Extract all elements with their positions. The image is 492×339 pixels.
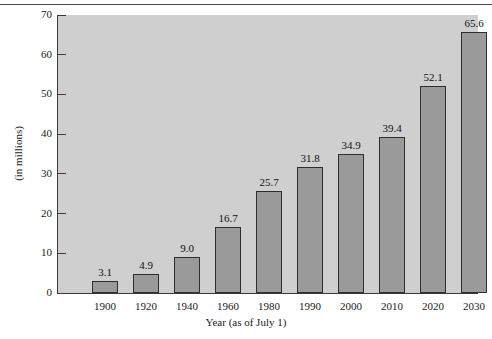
bar-value-label: 31.8 <box>290 153 330 164</box>
x-axis-tick-label: 2000 <box>331 301 371 312</box>
y-axis-tick <box>58 293 66 294</box>
x-axis-line <box>57 293 478 294</box>
y-axis-tick <box>58 253 66 254</box>
y-axis-tick-label-text: 40 <box>28 128 52 139</box>
y-axis-tick-label-text: 20 <box>28 208 52 219</box>
bar <box>338 154 364 293</box>
bar-value-label: 16.7 <box>208 213 248 224</box>
y-axis-title: (in millions) <box>13 94 24 214</box>
x-axis-tick-label: 1960 <box>208 301 248 312</box>
bar <box>420 86 446 293</box>
y-axis-tick <box>58 213 66 214</box>
y-axis-tick-label: 30 <box>22 168 52 179</box>
bar-value-label: 4.9 <box>126 260 166 271</box>
y-axis-tick <box>58 54 66 55</box>
y-axis-tick-label-text: 50 <box>28 88 52 99</box>
bar-value-label: 3.1 <box>85 267 125 278</box>
bar-value-label: 52.1 <box>413 72 453 83</box>
bar <box>461 32 487 293</box>
y-axis-tick-label: 10 <box>22 247 52 258</box>
x-axis-tick-label: 1990 <box>290 301 330 312</box>
bar-value-label: 65.6 <box>454 18 492 29</box>
bar <box>133 274 159 293</box>
x-axis-tick-label: 2020 <box>413 301 453 312</box>
x-axis-tick-label: 1940 <box>167 301 207 312</box>
y-axis-tick-label: 60 <box>22 49 52 60</box>
x-axis-tick-label: 1900 <box>85 301 125 312</box>
y-axis-tick-label-text: 0 <box>28 287 52 298</box>
y-axis-tick-label-text: 60 <box>28 49 52 60</box>
y-axis-tick <box>58 15 66 16</box>
y-axis-tick-label-text: 70 <box>28 9 52 20</box>
y-axis-tick <box>58 94 66 95</box>
bar <box>215 227 241 293</box>
y-axis-tick-label: 50 <box>22 88 52 99</box>
x-axis-tick-label: 1920 <box>126 301 166 312</box>
x-axis-tick-label: 2010 <box>372 301 412 312</box>
x-axis-title: Year (as of July 1) <box>0 317 492 328</box>
bar <box>92 281 118 293</box>
x-axis-tick-label: 2030 <box>454 301 492 312</box>
top-divider-rule <box>0 4 492 5</box>
bar <box>174 257 200 293</box>
y-axis-tick-label: 0 <box>22 287 52 298</box>
y-axis-tick <box>58 173 66 174</box>
y-axis-tick-label: 70 <box>22 9 52 20</box>
bar <box>379 137 405 293</box>
y-axis-tick <box>58 134 66 135</box>
bar-value-label: 25.7 <box>249 177 289 188</box>
bar <box>297 167 323 293</box>
bar-value-label: 9.0 <box>167 243 207 254</box>
y-axis-tick-label-text: 30 <box>28 168 52 179</box>
bar-chart-figure: 010203040506070 3.14.99.016.725.731.834.… <box>0 0 492 339</box>
x-axis-tick-label: 1980 <box>249 301 289 312</box>
y-axis-tick-label-text: 10 <box>28 247 52 258</box>
y-axis-tick-label: 40 <box>22 128 52 139</box>
bar-value-label: 39.4 <box>372 123 412 134</box>
bar-value-label: 34.9 <box>331 140 371 151</box>
bar <box>256 191 282 293</box>
y-axis-tick-label: 20 <box>22 208 52 219</box>
